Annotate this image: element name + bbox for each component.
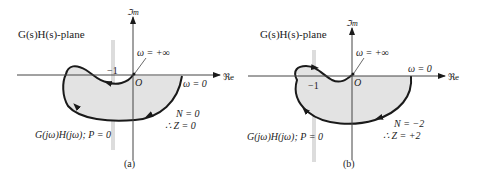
omega-inf-label-a: ω = +∞ — [137, 47, 170, 58]
omega-zero-label-b: ω = 0 — [408, 63, 432, 74]
omega-zero-label-a: ω = 0 — [183, 78, 207, 89]
origin-label-a: O — [135, 77, 142, 88]
n-label-a: N = 0 — [175, 108, 199, 119]
n-label-b: N = −2 — [393, 118, 424, 129]
origin-dot-a — [133, 73, 136, 76]
origin-dot-b — [352, 73, 355, 76]
caption-b: (b) — [343, 158, 355, 170]
z-label-b: ∴ Z = +2 — [383, 130, 421, 141]
plane-label-b: G(s)H(s)-plane — [260, 28, 327, 41]
plane-label-a: G(s)H(s)-plane — [18, 28, 85, 41]
curve-label-a: G(jω)H(jω); P = 0 — [35, 129, 111, 141]
real-axis-label-b: ℜe — [448, 72, 459, 82]
omega-inf-pointer-b — [354, 58, 364, 73]
panel-b: G(s)H(s)-plane ℑm ℜe −1 O ω = +∞ ω = 0 G… — [247, 19, 459, 170]
curve-label-b: G(jω)H(jω); P = 0 — [247, 131, 323, 143]
caption-a: (a) — [124, 158, 135, 170]
z-label-a: ∴ Z = 0 — [165, 120, 196, 131]
origin-label-b: O — [354, 77, 361, 88]
nyquist-figure: G(s)H(s)-plane ℑm ℜe −1 O ω = +∞ ω = 0 G… — [0, 0, 477, 179]
imag-axis-label-a: ℑm — [127, 8, 139, 17]
omega-inf-label-b: ω = +∞ — [356, 47, 389, 58]
minus-one-label-b: −1 — [308, 80, 319, 91]
minus-one-label-a: −1 — [107, 65, 118, 76]
panel-a: G(s)H(s)-plane ℑm ℜe −1 O ω = +∞ ω = 0 G… — [17, 8, 234, 170]
nyquist-curve-a — [63, 66, 182, 120]
imag-axis-label-b: ℑm — [346, 19, 358, 28]
real-axis-label-a: ℜe — [223, 72, 234, 82]
omega-inf-pointer-a — [135, 58, 146, 73]
